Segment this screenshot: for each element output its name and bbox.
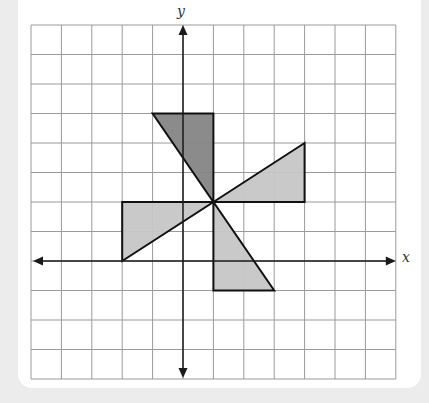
x-axis-label: x — [402, 250, 410, 264]
y-axis-down-arrow-icon — [179, 368, 188, 378]
coordinate-grid — [0, 0, 429, 403]
triangles — [122, 114, 304, 291]
x-axis-left-arrow-icon — [33, 257, 43, 266]
x-axis-right-arrow-icon — [386, 257, 396, 266]
y-axis-label: y — [177, 4, 185, 18]
y-axis-up-arrow-icon — [179, 25, 188, 35]
